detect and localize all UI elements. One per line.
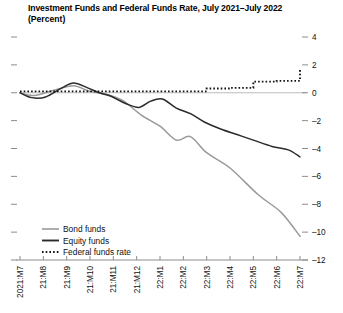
chart-container: Investment Funds and Federal Funds Rate,… <box>0 0 343 313</box>
x-axis-tick-label: 2021:M7 <box>16 266 25 298</box>
y-axis-tick-label: –4 <box>312 145 322 154</box>
y-axis-ticks: 420–2–4–6–8–10–12 <box>11 33 326 265</box>
x-axis-tick-label: 21:M9 <box>63 266 72 289</box>
series-equity-funds <box>20 83 300 157</box>
y-axis-tick-label: 0 <box>312 89 317 98</box>
chart-legend: Bond fundsEquity fundsFederal funds rate <box>42 224 131 257</box>
y-axis-tick-label: –6 <box>312 172 322 181</box>
y-axis-tick-label: –2 <box>312 117 322 126</box>
y-axis-tick-label: 4 <box>312 33 317 42</box>
y-axis-tick-label: –10 <box>312 228 326 237</box>
legend-label: Federal funds rate <box>63 247 131 257</box>
legend-label: Bond funds <box>63 224 105 234</box>
x-axis-labels: 2021:M721:M821:M921:M1021:M1121:M1222:M1… <box>16 266 305 298</box>
x-axis-tick-label: 21:M10 <box>86 266 95 294</box>
y-axis-tick-label: 2 <box>312 61 317 70</box>
x-axis-tick-label: 22:M6 <box>273 266 282 289</box>
x-axis-tick-label: 21:M11 <box>109 266 118 293</box>
x-axis-tick-label: 22:M7 <box>296 266 305 289</box>
chart-plot-svg: 420–2–4–6–8–10–12 2021:M721:M821:M921:M1… <box>0 0 343 313</box>
series-bond-funds <box>20 86 300 237</box>
x-axis-tick-label: 22:M1 <box>156 266 165 289</box>
x-axis-tick-label: 22:M2 <box>179 266 188 289</box>
x-axis-tick-label: 22:M5 <box>249 266 258 289</box>
x-axis-tick-label: 21:M8 <box>39 266 48 289</box>
y-axis-tick-label: –12 <box>312 256 326 265</box>
x-axis <box>16 256 308 260</box>
x-axis-tick-label: 22:M3 <box>203 266 212 289</box>
y-axis-tick-label: –8 <box>312 200 322 209</box>
legend-label: Equity funds <box>63 236 109 246</box>
data-series-group <box>20 69 300 236</box>
x-axis-tick-label: 22:M4 <box>226 266 235 289</box>
x-axis-tick-label: 21:M12 <box>133 266 142 294</box>
